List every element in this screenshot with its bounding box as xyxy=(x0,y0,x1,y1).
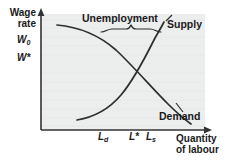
y-tick-subscript-w0: 0 xyxy=(26,39,30,46)
x-tick-label-ls: Ls xyxy=(146,131,156,142)
y-axis-title-line2: rate xyxy=(18,18,36,29)
y-tick-text-wstar: W* xyxy=(17,52,30,63)
x-axis-title-line2: of labour xyxy=(176,144,219,155)
y-axis-arrowhead xyxy=(38,8,45,16)
x-tick-text-lstar: L* xyxy=(129,131,139,142)
x-tick-label-lstar: L* xyxy=(129,131,139,142)
x-tick-subscript-ls: s xyxy=(152,136,156,143)
unemployment-label: Unemployment xyxy=(82,13,158,25)
x-tick-subscript-ld: d xyxy=(104,136,108,143)
x-axis-title-line1: Quantity xyxy=(176,133,217,144)
x-axis-title: Quantity of labour xyxy=(176,133,230,155)
y-tick-label-wstar: W* xyxy=(17,52,30,63)
y-axis-title: Wage rate xyxy=(2,7,36,29)
y-tick-label-w0: W0 xyxy=(17,34,30,45)
supply-curve-label: Supply xyxy=(167,19,202,31)
demand-curve-label: Demand xyxy=(159,111,200,123)
labour-market-diagram: Wage rate Quantity of labour W0 W* Ld L*… xyxy=(0,0,230,160)
x-tick-label-ld: Ld xyxy=(98,131,108,142)
y-axis-title-line1: Wage xyxy=(10,7,36,18)
